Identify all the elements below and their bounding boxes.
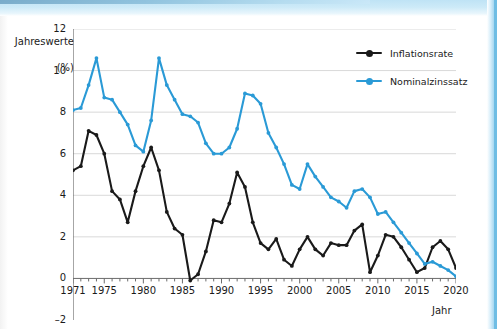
data-point	[173, 227, 177, 231]
data-point	[368, 195, 372, 199]
data-point	[188, 279, 192, 283]
data-point	[87, 83, 91, 87]
data-point	[392, 235, 396, 239]
legend-item-nominalzinssatz: Nominalzinssatz	[356, 72, 467, 90]
y-axis-title-line1: Jahreswerte	[15, 36, 74, 47]
data-point	[251, 94, 255, 98]
data-point	[267, 247, 271, 251]
y-tick-label--2: –2	[40, 314, 66, 325]
legend-item-inflationsrate: Inflationsrate	[356, 44, 467, 62]
data-point	[352, 189, 356, 193]
data-point	[165, 210, 169, 214]
y-tick-label-8: 8	[40, 106, 66, 117]
data-point	[329, 241, 333, 245]
data-point	[173, 98, 177, 102]
data-point	[352, 229, 356, 233]
data-point	[134, 144, 138, 148]
data-point	[267, 131, 271, 135]
data-point	[337, 200, 341, 204]
data-point	[384, 210, 388, 214]
data-point	[188, 114, 192, 118]
x-tick-label-1975: 1975	[84, 285, 124, 296]
data-point	[360, 187, 364, 191]
data-point	[79, 106, 83, 110]
x-tick-label-2005: 2005	[319, 285, 359, 296]
data-point	[298, 187, 302, 191]
data-point	[204, 141, 208, 145]
y-tick-label-6: 6	[40, 148, 66, 159]
data-point	[399, 231, 403, 235]
data-point	[157, 56, 161, 60]
data-point	[438, 264, 442, 268]
data-point	[392, 220, 396, 224]
data-point	[212, 152, 216, 156]
data-point	[149, 119, 153, 123]
data-point	[345, 206, 349, 210]
data-point	[274, 237, 278, 241]
data-point	[251, 220, 255, 224]
data-point	[118, 198, 122, 202]
data-point	[79, 164, 83, 168]
data-point	[196, 272, 200, 276]
data-point	[407, 241, 411, 245]
data-point	[141, 164, 145, 168]
data-point	[110, 98, 114, 102]
x-tick-label-2020: 2020	[436, 285, 476, 296]
data-point	[282, 258, 286, 262]
y-tick-label-0: 0	[40, 272, 66, 283]
x-tick-label-2015: 2015	[397, 285, 437, 296]
data-point	[95, 133, 99, 137]
data-point	[399, 245, 403, 249]
data-point	[345, 243, 349, 247]
data-point	[259, 241, 263, 245]
data-point	[415, 252, 419, 256]
x-tick-label-2000: 2000	[280, 285, 320, 296]
data-point	[181, 233, 185, 237]
data-point	[227, 146, 231, 150]
data-point	[446, 268, 450, 272]
legend-label-inflationsrate: Inflationsrate	[390, 48, 453, 59]
data-point	[181, 112, 185, 116]
data-point	[134, 189, 138, 193]
data-point	[204, 250, 208, 254]
data-point	[212, 218, 216, 222]
legend-swatch-nominalzinssatz	[356, 76, 382, 86]
data-point	[360, 222, 364, 226]
data-point	[376, 212, 380, 216]
data-point	[220, 220, 224, 224]
data-point	[376, 254, 380, 258]
data-point	[243, 185, 247, 189]
data-point	[149, 146, 153, 150]
data-point	[446, 247, 450, 251]
data-point	[274, 146, 278, 150]
data-point	[431, 245, 435, 249]
x-tick-label-1995: 1995	[241, 285, 281, 296]
data-point	[321, 254, 325, 258]
x-tick-label-1990: 1990	[202, 285, 242, 296]
figure-root: Jahreswerte (%) Jahr –2024681012 1971197…	[0, 0, 497, 329]
data-point	[126, 123, 130, 127]
data-point	[423, 262, 427, 266]
data-point	[235, 127, 239, 131]
data-point	[290, 183, 294, 187]
data-point	[423, 266, 427, 270]
data-point	[282, 162, 286, 166]
y-tick-label-12: 12	[40, 23, 66, 34]
data-point	[306, 235, 310, 239]
data-point	[102, 96, 106, 100]
data-point	[87, 129, 91, 133]
data-point	[141, 150, 145, 154]
data-point	[415, 270, 419, 274]
data-point	[126, 220, 130, 224]
data-point	[368, 270, 372, 274]
data-point	[313, 175, 317, 179]
data-point	[235, 171, 239, 175]
data-point	[243, 92, 247, 96]
data-point	[306, 162, 310, 166]
x-tick-label-2010: 2010	[358, 285, 398, 296]
data-point	[95, 56, 99, 60]
y-tick-label-4: 4	[40, 189, 66, 200]
data-point	[110, 189, 114, 193]
data-point	[329, 195, 333, 199]
x-tick-label-1985: 1985	[162, 285, 202, 296]
